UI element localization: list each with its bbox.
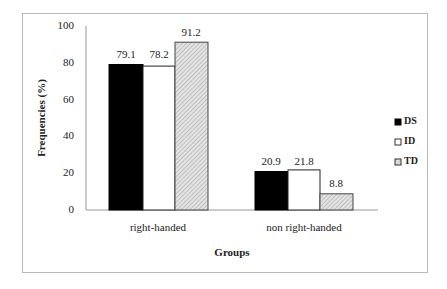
legend-label-ds: DS xyxy=(404,115,417,126)
x-axis-label: Groups xyxy=(202,246,262,258)
y-axis-label: Frequencies (%) xyxy=(35,63,47,173)
y-tick: 40 xyxy=(44,129,74,141)
data-label: 8.8 xyxy=(316,177,356,189)
x-category-label: non right-handed xyxy=(244,221,364,233)
bar-nrh-ds xyxy=(255,172,288,211)
bar-rh-id xyxy=(143,66,175,210)
data-label: 21.8 xyxy=(284,155,324,167)
legend-swatch-td xyxy=(395,159,401,165)
y-tick: 0 xyxy=(44,203,74,215)
legend-label-td: TD xyxy=(404,155,418,166)
legend-label-id: ID xyxy=(404,135,415,146)
bar-rh-ds xyxy=(109,65,143,211)
y-tick: 80 xyxy=(44,56,74,68)
bar-nrh-id xyxy=(288,170,320,210)
bar-rh-td xyxy=(175,42,208,210)
bar-nrh-td xyxy=(320,194,353,210)
legend-swatch-ds xyxy=(395,119,401,125)
y-tick: 60 xyxy=(44,93,74,105)
y-tick: 100 xyxy=(44,19,74,31)
data-label: 78.2 xyxy=(139,48,179,60)
data-label: 91.2 xyxy=(171,26,211,38)
x-category-label: right-handed xyxy=(108,221,208,233)
y-tick: 20 xyxy=(44,166,74,178)
legend-swatch-id xyxy=(395,139,401,145)
